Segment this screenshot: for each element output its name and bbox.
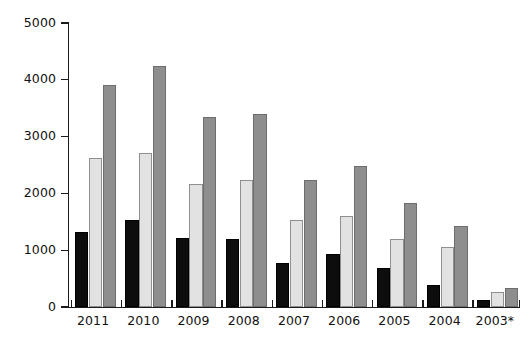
y-tick-label: 3000 <box>2 130 56 143</box>
x-tick-label: 2008 <box>219 314 269 328</box>
bar-2003-series-1 <box>477 300 490 307</box>
bar-2011-series-2 <box>89 158 102 307</box>
y-tick-label: 0 <box>2 301 56 314</box>
bar-2006-series-2 <box>340 216 353 307</box>
x-tick-end <box>519 300 520 308</box>
bar-2008-series-2 <box>240 180 253 307</box>
y-tick-label: 5000 <box>2 17 56 30</box>
bar-chart: 010002000300040005000 201120102009200820… <box>0 0 530 349</box>
bar-2007-series-2 <box>290 220 303 307</box>
x-axis-line <box>68 307 520 308</box>
bar-2009-series-2 <box>189 184 202 307</box>
bar-2005-series-3 <box>404 203 417 308</box>
bar-2003-series-3 <box>505 288 518 307</box>
bar-2006-series-1 <box>326 254 339 307</box>
x-tick-label: 2004 <box>420 314 470 328</box>
bar-2009-series-3 <box>203 117 216 307</box>
bar-2011-series-1 <box>75 232 88 307</box>
x-tick-2009 <box>171 300 172 308</box>
bar-2004-series-3 <box>454 226 467 307</box>
bar-2007-series-1 <box>276 263 289 307</box>
x-tick-label: 2005 <box>369 314 419 328</box>
x-tick-label: 2010 <box>118 314 168 328</box>
x-tick-2006 <box>322 300 323 308</box>
bar-2009-series-1 <box>176 238 189 307</box>
bar-2007-series-3 <box>304 180 317 307</box>
bar-2010-series-2 <box>139 153 152 307</box>
y-tick-label: 2000 <box>2 187 56 200</box>
x-tick-label: 2009 <box>168 314 218 328</box>
y-tick-label: 4000 <box>2 73 56 86</box>
bar-2010-series-3 <box>153 66 166 307</box>
x-tick-2008 <box>221 300 222 308</box>
bar-2008-series-1 <box>226 239 239 307</box>
bar-2010-series-1 <box>125 220 138 307</box>
bar-2004-series-2 <box>441 247 454 307</box>
bar-2005-series-1 <box>377 268 390 307</box>
x-tick-label: 2007 <box>269 314 319 328</box>
x-tick-label: 2003* <box>470 314 520 328</box>
x-tick-2010 <box>121 300 122 308</box>
x-tick-label: 2006 <box>319 314 369 328</box>
bar-2004-series-1 <box>427 285 440 307</box>
x-tick-2011 <box>71 300 72 308</box>
x-tick-2007 <box>272 300 273 308</box>
bar-2008-series-3 <box>253 114 266 307</box>
plot-area <box>68 23 520 307</box>
x-tick-2003 <box>472 300 473 308</box>
x-tick-label: 2011 <box>68 314 118 328</box>
x-tick-2004 <box>422 300 423 308</box>
bar-2006-series-3 <box>354 166 367 307</box>
bar-2005-series-2 <box>390 239 403 307</box>
bar-2003-series-2 <box>491 292 504 307</box>
x-tick-2005 <box>372 300 373 308</box>
bar-2011-series-3 <box>103 85 116 307</box>
y-tick-label: 1000 <box>2 244 56 257</box>
